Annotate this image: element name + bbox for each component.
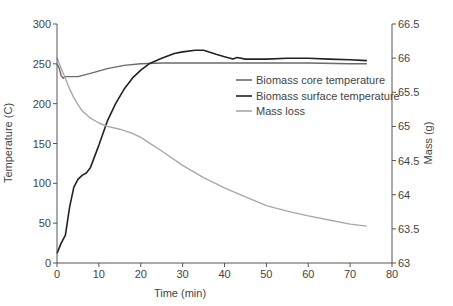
y-tick-label: 50 (39, 217, 51, 229)
legend-label-mass: Mass loss (256, 105, 305, 117)
x-tick-label: 70 (344, 268, 356, 280)
y2-tick-label: 65 (398, 120, 410, 132)
x-tick-label: 20 (135, 268, 147, 280)
legend-label-surface: Biomass surface temperature (256, 90, 400, 102)
x-tick-label: 50 (260, 268, 272, 280)
y2-tick-label: 65.5 (398, 86, 419, 98)
x-tick-label: 0 (54, 268, 60, 280)
x-tick-label: 80 (386, 268, 398, 280)
y-tick-label: 250 (33, 58, 51, 70)
left-y-axis-label: Temperature (C) (2, 103, 14, 183)
legend-label-core: Biomass core temperature (256, 74, 385, 86)
x-tick-label: 60 (302, 268, 314, 280)
y2-tick-label: 64.5 (398, 155, 419, 167)
right-y-axis-label: Mass (g) (422, 122, 434, 165)
y2-tick-label: 66.5 (398, 18, 419, 30)
x-tick-label: 40 (218, 268, 230, 280)
y2-tick-label: 66 (398, 52, 410, 64)
x-axis-label: Time (min) (154, 287, 206, 299)
y2-tick-label: 63.5 (398, 223, 419, 235)
legend: Biomass core temperature Biomass surface… (236, 74, 400, 117)
y-tick-label: 300 (33, 18, 51, 30)
y-tick-label: 0 (45, 257, 51, 269)
y2-tick-label: 63 (398, 257, 410, 269)
x-tick-label: 30 (177, 268, 189, 280)
x-tick-label: 10 (93, 268, 105, 280)
y-tick-label: 100 (33, 177, 51, 189)
line-chart: 010203040506070800501001502002503006363.… (0, 0, 453, 306)
y-tick-label: 150 (33, 138, 51, 150)
y-tick-label: 200 (33, 98, 51, 110)
y2-tick-label: 64 (398, 189, 410, 201)
